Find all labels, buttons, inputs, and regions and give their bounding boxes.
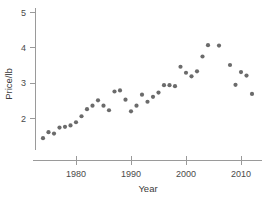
x-tick-label: 1990 <box>121 169 141 179</box>
data-point <box>112 89 116 93</box>
data-point <box>79 114 83 118</box>
data-point <box>151 95 155 99</box>
data-point <box>123 98 127 102</box>
y-tick-label: 5 <box>21 8 26 18</box>
scatter-plot-figure: 2345 1980199020002010 Year Price/lb <box>0 0 268 199</box>
data-point <box>250 92 254 96</box>
x-axis-ticks: 1980199020002010 <box>66 156 251 179</box>
data-point <box>200 54 204 58</box>
data-point <box>195 69 199 73</box>
x-axis-title: Year <box>138 183 157 194</box>
chart-canvas: 2345 1980199020002010 Year Price/lb <box>0 0 268 199</box>
data-point <box>63 125 67 129</box>
data-points-layer <box>41 43 254 140</box>
data-point <box>140 93 144 97</box>
data-point <box>52 131 56 135</box>
y-axis-ticks: 2345 <box>21 8 36 124</box>
data-point <box>162 83 166 87</box>
data-point <box>145 100 149 104</box>
data-point <box>189 74 193 78</box>
data-point <box>167 83 171 87</box>
data-point <box>206 43 210 47</box>
data-point <box>156 90 160 94</box>
data-point <box>74 120 78 124</box>
data-point <box>129 109 133 113</box>
x-tick-label: 2000 <box>176 169 196 179</box>
data-point <box>228 63 232 67</box>
data-point <box>239 70 243 74</box>
x-tick-label: 2010 <box>231 169 251 179</box>
data-point <box>134 104 138 108</box>
data-point <box>217 43 221 47</box>
data-point <box>244 74 248 78</box>
data-point <box>101 104 105 108</box>
data-point <box>46 130 50 134</box>
data-point <box>107 108 111 112</box>
y-axis-title: Price/lb <box>3 68 14 100</box>
data-point <box>85 107 89 111</box>
data-point <box>96 98 100 102</box>
y-tick-label: 2 <box>21 114 26 124</box>
x-tick-label: 1980 <box>66 169 86 179</box>
data-point <box>118 88 122 92</box>
data-point <box>68 123 72 127</box>
data-point <box>90 104 94 108</box>
data-point <box>41 136 45 140</box>
data-point <box>233 83 237 87</box>
data-point <box>178 65 182 69</box>
y-tick-label: 3 <box>21 78 26 88</box>
data-point <box>173 84 177 88</box>
data-point <box>184 71 188 75</box>
data-point <box>57 125 61 129</box>
y-tick-label: 4 <box>21 43 26 53</box>
